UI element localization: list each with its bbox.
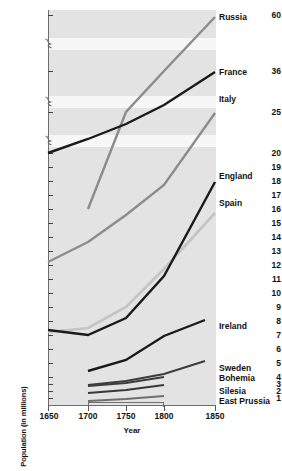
axis-break-zigzag-3 — [44, 135, 53, 146]
series-label-england: England — [219, 172, 253, 182]
series-line-east-prussia — [88, 396, 164, 401]
series-line-england — [48, 182, 215, 335]
series-label-east-prussia: East Prussia — [219, 397, 270, 407]
series-label-france: France — [219, 68, 247, 78]
series-line-russia — [88, 17, 215, 209]
series-line-france — [48, 72, 215, 153]
axis-break-zigzag-2 — [44, 96, 53, 107]
series-label-russia: Russia — [219, 13, 247, 23]
series-label-ireland: Ireland — [219, 322, 247, 332]
series-line-sweden — [88, 361, 205, 385]
series-label-italy: Italy — [219, 95, 236, 105]
series-label-spain: Spain — [219, 199, 242, 209]
axis-break-zigzag-1 — [44, 38, 53, 49]
series-label-bohemia: Bohemia — [219, 374, 255, 384]
series-line-spain — [48, 213, 215, 332]
